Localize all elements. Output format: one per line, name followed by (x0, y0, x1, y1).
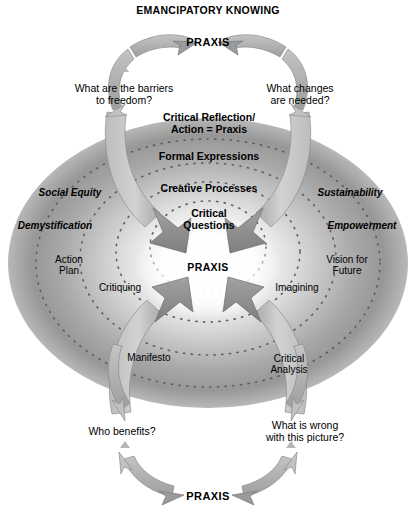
emancipatory-knowing-diagram: EMANCIPATORY KNOWING PRAXIS What are the… (0, 0, 417, 514)
arrowhead-up-wrong (286, 441, 296, 454)
arrow-top-right-outward (282, 49, 311, 117)
arrow-bottom-right-into-praxis (232, 452, 297, 505)
arrow-top-right-into-praxis (218, 35, 286, 57)
arrow-top-left-into-praxis (130, 35, 198, 57)
core-glow (136, 216, 280, 320)
diagram-graphics (0, 0, 417, 514)
arrowhead-up-benefits (120, 441, 130, 454)
arrow-bottom-left-into-praxis (119, 452, 184, 505)
arrow-top-left-outward (105, 49, 134, 117)
